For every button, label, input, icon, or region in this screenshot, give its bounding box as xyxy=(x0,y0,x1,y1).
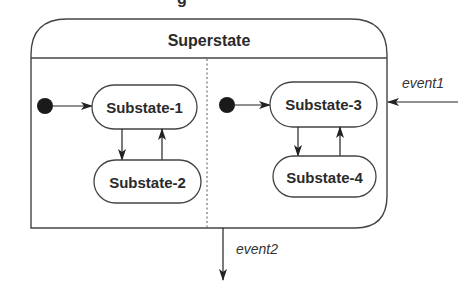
substate-2[interactable]: Substate-2 xyxy=(94,160,201,203)
initial-state-icon xyxy=(219,97,235,113)
event1-transition[interactable]: event1 xyxy=(388,75,458,102)
svg-text:Substate-2: Substate-2 xyxy=(109,174,186,191)
state-diagram: g Superstate Substate-1 Substate-2 Subst… xyxy=(0,0,472,296)
substate-4[interactable]: Substate-4 xyxy=(273,156,376,197)
caption-fragment: g xyxy=(177,0,187,7)
svg-text:Substate-4: Substate-4 xyxy=(286,169,363,186)
initial-state-icon xyxy=(37,98,53,114)
svg-text:Substate-1: Substate-1 xyxy=(106,99,183,116)
substate-1[interactable]: Substate-1 xyxy=(92,85,197,129)
substate-3[interactable]: Substate-3 xyxy=(270,82,377,127)
event2-transition[interactable]: event2 xyxy=(223,228,278,280)
superstate-label: Superstate xyxy=(168,32,251,49)
event2-label: event2 xyxy=(236,241,278,257)
event1-label: event1 xyxy=(402,75,444,91)
svg-text:Substate-3: Substate-3 xyxy=(285,96,362,113)
